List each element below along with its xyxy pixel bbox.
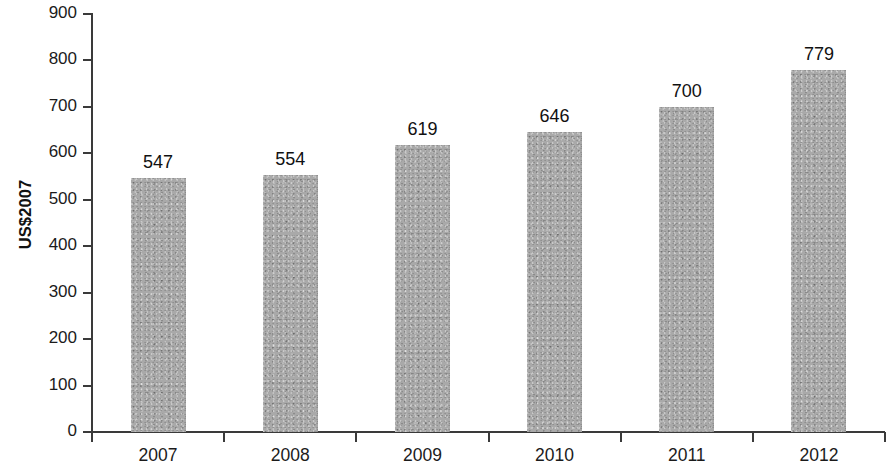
y-axis-tick-label: 600 <box>49 142 77 162</box>
x-axis-tick-mark <box>752 432 754 442</box>
bar-2009 <box>395 145 450 432</box>
bar-2007 <box>131 178 186 432</box>
bar-value-label-2009: 619 <box>357 119 488 140</box>
y-axis-tick-label: 200 <box>49 328 77 348</box>
bar-value-label-2010: 646 <box>489 106 620 127</box>
bar-chart: US$2007 0100200300400500600700800900 200… <box>0 0 894 473</box>
y-axis-tick-mark <box>83 152 92 154</box>
x-axis-tick-mark <box>488 432 490 442</box>
x-axis-tick-mark <box>223 432 225 442</box>
y-axis-tick-label: 0 <box>68 421 77 441</box>
x-axis-label-2009: 2009 <box>357 444 488 466</box>
x-axis-tick-mark <box>884 432 886 442</box>
x-axis-tick-mark <box>620 432 622 442</box>
bar-2012 <box>791 70 846 432</box>
y-axis-title: US$2007 <box>16 160 35 270</box>
y-axis-tick-mark <box>83 13 92 15</box>
y-axis-tick-mark <box>83 338 92 340</box>
bar-2008 <box>263 175 318 432</box>
x-axis-tick-mark <box>91 432 93 442</box>
x-axis-label-2007: 2007 <box>93 444 224 466</box>
y-axis-tick-label: 500 <box>49 189 77 209</box>
y-axis-tick-mark <box>83 199 92 201</box>
x-axis-label-2010: 2010 <box>489 444 620 466</box>
x-axis-tick-mark <box>355 432 357 442</box>
y-axis-tick-mark <box>83 292 92 294</box>
bar-value-label-2008: 554 <box>225 149 356 170</box>
y-axis-tick-label: 400 <box>49 235 77 255</box>
x-axis-label-2012: 2012 <box>753 444 884 466</box>
y-axis-tick-mark <box>83 385 92 387</box>
bar-value-label-2011: 700 <box>621 81 752 102</box>
x-axis-label-2011: 2011 <box>621 444 752 466</box>
y-axis-tick-label: 700 <box>49 96 77 116</box>
plot-area <box>92 14 885 432</box>
y-axis-tick-mark <box>83 106 92 108</box>
bar-2010 <box>527 132 582 432</box>
bar-2011 <box>659 107 714 432</box>
x-axis-label-2008: 2008 <box>225 444 356 466</box>
bar-value-label-2012: 779 <box>753 44 884 65</box>
y-axis-tick-mark <box>83 59 92 61</box>
y-axis-tick-label: 800 <box>49 49 77 69</box>
y-axis-tick-mark <box>83 245 92 247</box>
y-axis-tick-label: 300 <box>49 282 77 302</box>
y-axis-tick-label: 900 <box>49 3 77 23</box>
bar-value-label-2007: 547 <box>93 152 224 173</box>
y-axis-tick-label: 100 <box>49 375 77 395</box>
